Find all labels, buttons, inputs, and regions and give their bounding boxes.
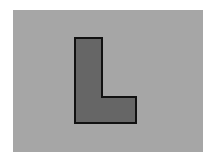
l-shape-polygon <box>75 38 136 123</box>
l-shape-icon <box>0 0 213 163</box>
diagram-canvas <box>0 0 213 163</box>
